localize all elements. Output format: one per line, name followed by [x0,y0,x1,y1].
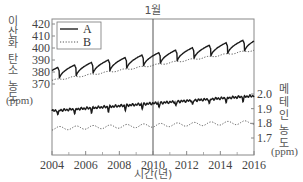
left-y-tick-label: 380 [32,65,50,79]
right-y-tick-label: 1.9 [257,102,272,116]
left-y-tick-label: 410 [32,29,50,43]
left-axis-title: 이산화탄소농도 [8,15,18,104]
legend-label-a: A [83,22,92,36]
x-tick-label: 2008 [107,158,131,172]
right-axis-unit: (ppm) [271,145,298,158]
left-axis-unit: (ppm) [6,94,33,107]
right-axis-title-char: 테 [279,96,289,109]
left-y-tick-label: 400 [32,41,50,55]
x-tick-label: 2004 [40,158,64,172]
left-axis-title-char: 화 [8,37,18,50]
x-tick-label: 2006 [74,158,98,172]
x-tick-label: 2014 [208,158,232,172]
right-y-tick-label: 2.0 [257,87,272,101]
annotation-label: 1월 [145,4,162,17]
x-axis-title: 시간(년) [134,168,173,181]
legend-box [57,22,101,49]
legend: A B [57,22,101,49]
right-axis-title-char: 메 [279,83,289,96]
x-tick-label: 2012 [175,158,199,172]
right-y-tick-label: 1.7 [257,131,272,145]
left-y-tick-label: 390 [32,53,50,67]
right-axis-title-char: 농 [279,124,289,137]
right-y-tick-label: 1.8 [257,116,272,130]
left-y-tick-label: 370 [32,77,50,91]
chart: 1월 2004200620082010201220142016 37038039… [0,0,303,182]
left-y-tick-label: 420 [32,17,50,31]
right-axis-title-char: 인 [279,109,289,122]
x-tick-label: 2016 [242,158,266,172]
right-axis-title: 메테인농도 [279,83,289,150]
legend-label-b: B [83,35,91,49]
left-axis-title-char: 소 [8,64,18,77]
